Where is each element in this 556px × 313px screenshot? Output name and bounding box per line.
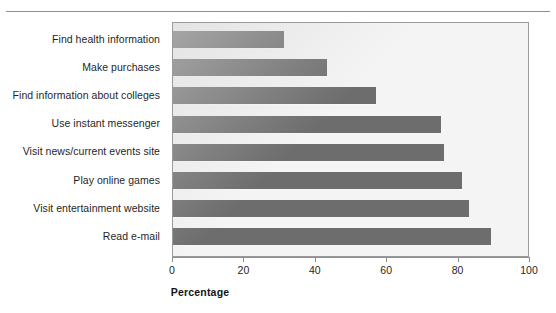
bar <box>173 59 327 76</box>
bar <box>173 144 444 161</box>
bars-layer <box>173 23 528 256</box>
category-label: Read e-mail <box>0 230 160 242</box>
category-label: Make purchases <box>0 61 160 73</box>
category-label: Find information about colleges <box>0 89 160 101</box>
x-tick-label: 0 <box>169 264 175 276</box>
x-axis-line <box>172 257 529 258</box>
bar <box>173 31 284 48</box>
category-label: Visit news/current events site <box>0 145 160 157</box>
bar <box>173 172 462 189</box>
x-axis-title: Percentage <box>0 286 556 298</box>
bar <box>173 228 491 245</box>
x-tick-label: 40 <box>309 264 321 276</box>
plot-area <box>172 22 529 257</box>
category-label: Use instant messenger <box>0 117 160 129</box>
x-tick-mark <box>315 257 316 262</box>
x-tick-label: 80 <box>452 264 464 276</box>
category-label: Play online games <box>0 174 160 186</box>
x-tick-label: 100 <box>520 264 538 276</box>
top-divider-rule <box>6 11 550 12</box>
category-axis-labels: Find health informationMake purchasesFin… <box>0 22 166 257</box>
x-tick-mark <box>172 257 173 262</box>
x-tick-label: 60 <box>380 264 392 276</box>
category-label: Find health information <box>0 33 160 45</box>
x-tick-label: 20 <box>238 264 250 276</box>
x-tick-mark <box>458 257 459 262</box>
x-tick-mark <box>529 257 530 262</box>
x-tick-mark <box>243 257 244 262</box>
category-label: Visit entertainment website <box>0 202 160 214</box>
bar <box>173 116 441 133</box>
x-axis-title-text: Percentage <box>171 286 230 298</box>
x-tick-mark <box>386 257 387 262</box>
bar-chart-figure: Find health informationMake purchasesFin… <box>0 0 556 313</box>
bar <box>173 200 469 217</box>
bar <box>173 87 376 104</box>
